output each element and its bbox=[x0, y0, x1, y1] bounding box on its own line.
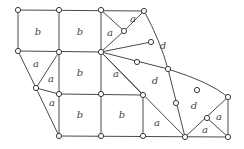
mesh-node bbox=[33, 85, 38, 90]
mesh-node bbox=[98, 133, 103, 138]
mesh-node bbox=[15, 7, 20, 12]
cell-labels: bbaadaabadabbadaa bbox=[33, 13, 222, 135]
mesh-node bbox=[56, 91, 61, 96]
cell-label: b bbox=[77, 26, 83, 37]
cell-label: a bbox=[202, 124, 208, 135]
cell-label: a bbox=[113, 68, 119, 79]
mesh-node bbox=[121, 28, 126, 33]
cell-label: a bbox=[33, 58, 39, 69]
mesh-node bbox=[56, 7, 61, 12]
mesh-node bbox=[134, 59, 139, 64]
mesh-node bbox=[15, 48, 20, 53]
mesh-node bbox=[165, 66, 170, 71]
mesh-node bbox=[225, 94, 230, 99]
cell-label: a bbox=[48, 73, 54, 84]
mesh-node bbox=[141, 8, 146, 13]
mesh-node bbox=[173, 100, 178, 105]
mesh-node bbox=[98, 49, 103, 54]
mesh-node bbox=[194, 87, 199, 92]
mesh-diagram: bbaadaabadabbadaa bbox=[0, 0, 244, 149]
cell-label: b bbox=[119, 109, 125, 120]
mesh-node bbox=[98, 91, 103, 96]
mesh-node bbox=[140, 92, 145, 97]
cell-label: b bbox=[35, 26, 41, 37]
cell-label: d bbox=[191, 100, 197, 111]
cell-label: a bbox=[216, 111, 222, 122]
cell-label: a bbox=[49, 97, 55, 108]
cell-label: d bbox=[152, 75, 158, 86]
mesh-node bbox=[56, 133, 61, 138]
cell-label: d bbox=[160, 40, 166, 51]
mesh-node bbox=[225, 134, 230, 139]
mesh-node bbox=[148, 39, 153, 44]
cell-label: b bbox=[77, 67, 83, 78]
mesh-node bbox=[140, 133, 145, 138]
mesh-node bbox=[98, 7, 103, 12]
cell-label: a bbox=[130, 13, 136, 24]
mesh-node bbox=[204, 115, 209, 120]
cell-label: a bbox=[107, 27, 113, 38]
mesh-node bbox=[56, 49, 61, 54]
cell-label: b bbox=[77, 109, 83, 120]
mesh-node bbox=[182, 134, 187, 139]
cell-label: a bbox=[154, 117, 160, 128]
